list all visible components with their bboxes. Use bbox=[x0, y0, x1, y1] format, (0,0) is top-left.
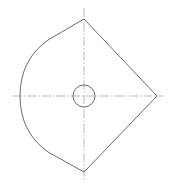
technical-drawing bbox=[0, 0, 173, 187]
part-outline bbox=[20, 19, 157, 172]
